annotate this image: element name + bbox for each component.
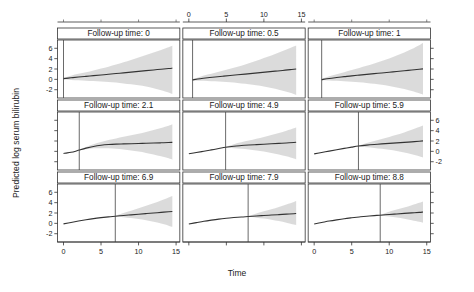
panel-strip-label: Follow-up time: 0 (87, 29, 150, 38)
panel-strip-label: Follow-up time: 5.9 (335, 101, 405, 110)
y-axis-tick-label: 0 (49, 219, 53, 228)
x-axis-tick-label: 5 (99, 247, 103, 256)
trellis-figure: Predicted log serum bilirubin Time 05101… (0, 0, 474, 292)
panel-strip-label: Follow-up time: 1 (338, 29, 401, 38)
y-axis-tick-label: 4 (49, 54, 53, 63)
y-axis-tick-label: 6 (436, 116, 440, 125)
panel: Follow-up time: 6.9-20246051015 (46, 172, 180, 256)
panel: Follow-up time: 1 (308, 28, 434, 98)
y-axis-tick-label: 6 (49, 44, 53, 53)
y-axis-tick-label: 0 (49, 75, 53, 84)
y-axis-tick-label: -2 (46, 85, 52, 94)
confidence-band (79, 124, 172, 159)
confidence-band (115, 196, 172, 227)
panel-strip-label: Follow-up time: 7.9 (209, 173, 279, 182)
x-axis-tick-label: 0 (312, 247, 316, 256)
panel-strip-label: Follow-up time: 0.5 (209, 29, 279, 38)
x-axis-tick-label: 15 (423, 247, 431, 256)
y-axis-tick-label: 0 (436, 147, 440, 156)
y-axis-tick-label: -2 (46, 229, 52, 238)
top-axis-tick-label: 5 (224, 10, 228, 19)
top-axis-tick-label: 0 (187, 10, 191, 19)
top-axis-tick-label: 15 (297, 10, 305, 19)
panel: Follow-up time: 2.1 (54, 100, 180, 170)
x-axis-tick-label: 10 (385, 247, 393, 256)
confidence-band (322, 43, 423, 95)
panel-strip-label: Follow-up time: 8.8 (335, 173, 405, 182)
y-axis-tick-label: -2 (436, 157, 442, 166)
y-axis-tick-label: 4 (49, 198, 53, 207)
panel-strip-label: Follow-up time: 2.1 (84, 101, 154, 110)
y-axis-title: Predicted log serum bilirubin (11, 43, 21, 243)
panel: Follow-up time: 5.9-20246 (308, 100, 442, 170)
panel: Follow-up time: 4.9 (183, 100, 305, 170)
panel: Follow-up time: 0.5 (183, 28, 305, 98)
panel: Follow-up time: 7.9 (183, 172, 305, 245)
x-axis-title: Time (0, 268, 474, 278)
y-axis-tick-label: 2 (49, 65, 53, 74)
x-axis-tick-label: 5 (350, 247, 354, 256)
top-axis-tick-label: 10 (260, 10, 268, 19)
plot-canvas: 051015Follow-up time: 0-20246Follow-up t… (0, 0, 474, 292)
confidence-band (248, 201, 296, 225)
y-axis-tick-label: 4 (436, 126, 440, 135)
x-axis-tick-label: 10 (135, 247, 143, 256)
panel: Follow-up time: 0-20246 (46, 28, 180, 98)
y-axis-tick-label: 2 (436, 137, 440, 146)
panel: Follow-up time: 8.8051015 (308, 172, 434, 256)
panel-strip-label: Follow-up time: 4.9 (209, 101, 279, 110)
y-axis-tick-label: 6 (49, 188, 53, 197)
panel-strip-label: Follow-up time: 6.9 (84, 173, 154, 182)
x-axis-tick-label: 0 (62, 247, 66, 256)
y-axis-tick-label: 2 (49, 209, 53, 218)
x-axis-tick-label: 15 (172, 247, 180, 256)
